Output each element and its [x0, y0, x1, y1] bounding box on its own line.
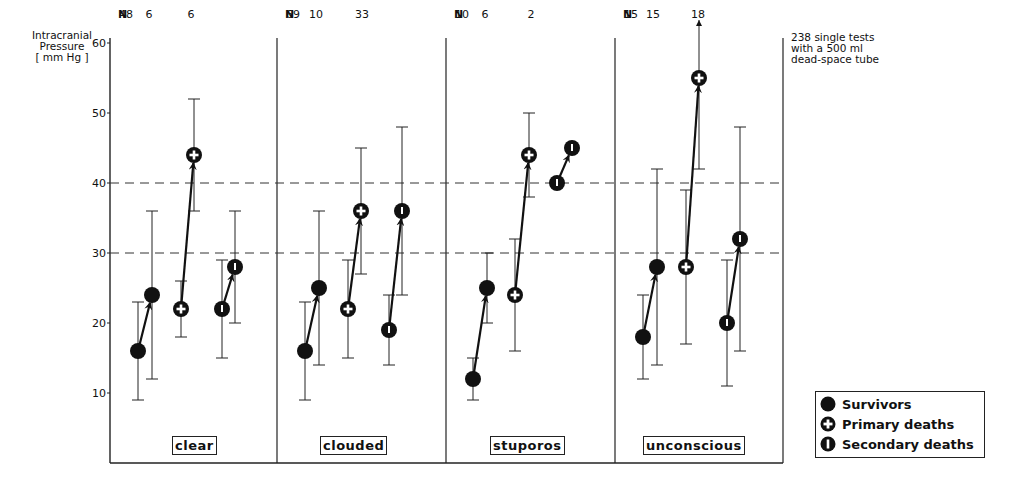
bar-icon: [221, 305, 223, 312]
cross-icon: [682, 266, 691, 269]
bar-icon: [388, 326, 390, 333]
bar-icon: [401, 207, 403, 214]
n-count: 10: [309, 8, 323, 21]
survivor-marker: [144, 287, 160, 303]
bar-icon: [571, 144, 573, 151]
survivor-marker: [130, 343, 146, 359]
change-arrow: [686, 86, 698, 267]
change-arrow: [348, 219, 360, 309]
survivor-marker: [465, 371, 481, 387]
legend-item-secondary-deaths: Secondary deaths: [820, 434, 974, 454]
y-axis-label-line: [ mm Hg ]: [22, 52, 102, 63]
legend-item-primary-deaths: Primary deaths: [820, 414, 954, 434]
category-label-unconscious: unconscious: [643, 436, 745, 455]
note-line: dead-space tube: [791, 54, 879, 65]
n-count: 15: [646, 8, 660, 21]
n-count: 2: [528, 8, 535, 21]
legend-label: Primary deaths: [842, 417, 954, 432]
survivor-marker: [635, 329, 651, 345]
change-arrow: [305, 296, 317, 351]
legend-item-survivors: Survivors: [820, 394, 912, 414]
n-count: 69: [286, 8, 300, 21]
n-count: 6: [188, 8, 195, 21]
survivor-marker: [649, 259, 665, 275]
n-count: 6: [482, 8, 489, 21]
bar-icon: [556, 179, 558, 186]
change-arrow: [389, 219, 401, 330]
cross-icon: [344, 308, 353, 311]
cross-icon: [357, 210, 366, 213]
filled-circle-icon: [820, 396, 836, 412]
survivor-marker: [311, 280, 327, 296]
survivor-marker: [297, 343, 313, 359]
n-count: 15: [624, 8, 638, 21]
n-count: 18: [691, 8, 705, 21]
cross-icon: [695, 77, 704, 80]
change-arrow: [643, 275, 655, 337]
bar-icon: [234, 263, 236, 270]
cross-icon: [177, 308, 186, 311]
change-arrow: [181, 163, 193, 309]
y-axis-label: Intracranial Pressure [ mm Hg ]: [22, 30, 102, 63]
n-count: 6: [146, 8, 153, 21]
y-tick-label: 40: [92, 177, 106, 190]
bar-icon: [739, 235, 741, 242]
n-count: 10: [455, 8, 469, 21]
n-count: 33: [355, 8, 369, 21]
category-label-clouded: clouded: [320, 436, 387, 455]
circle-cross-icon: [820, 416, 836, 432]
y-tick-label: 30: [92, 247, 106, 260]
survivor-marker: [479, 280, 495, 296]
circle-bar-icon: [820, 436, 836, 452]
n-count: 48: [119, 8, 133, 21]
cross-icon: [525, 154, 534, 157]
change-arrow: [727, 247, 739, 323]
cross-icon: [511, 294, 520, 297]
y-tick-label: 50: [92, 107, 106, 120]
y-tick-label: 20: [92, 317, 106, 330]
y-tick-label: 10: [92, 387, 106, 400]
cross-icon: [190, 154, 199, 157]
change-arrow: [473, 296, 486, 379]
legend-label: Secondary deaths: [842, 437, 974, 452]
legend: Survivors Primary deaths Secondary death…: [815, 391, 985, 458]
category-label-stuporos: stuporos: [490, 436, 565, 455]
bar-icon: [726, 319, 728, 326]
test-note: 238 single tests with a 500 ml dead-spac…: [791, 32, 879, 65]
legend-label: Survivors: [842, 397, 912, 412]
category-label-clear: clear: [172, 436, 217, 455]
